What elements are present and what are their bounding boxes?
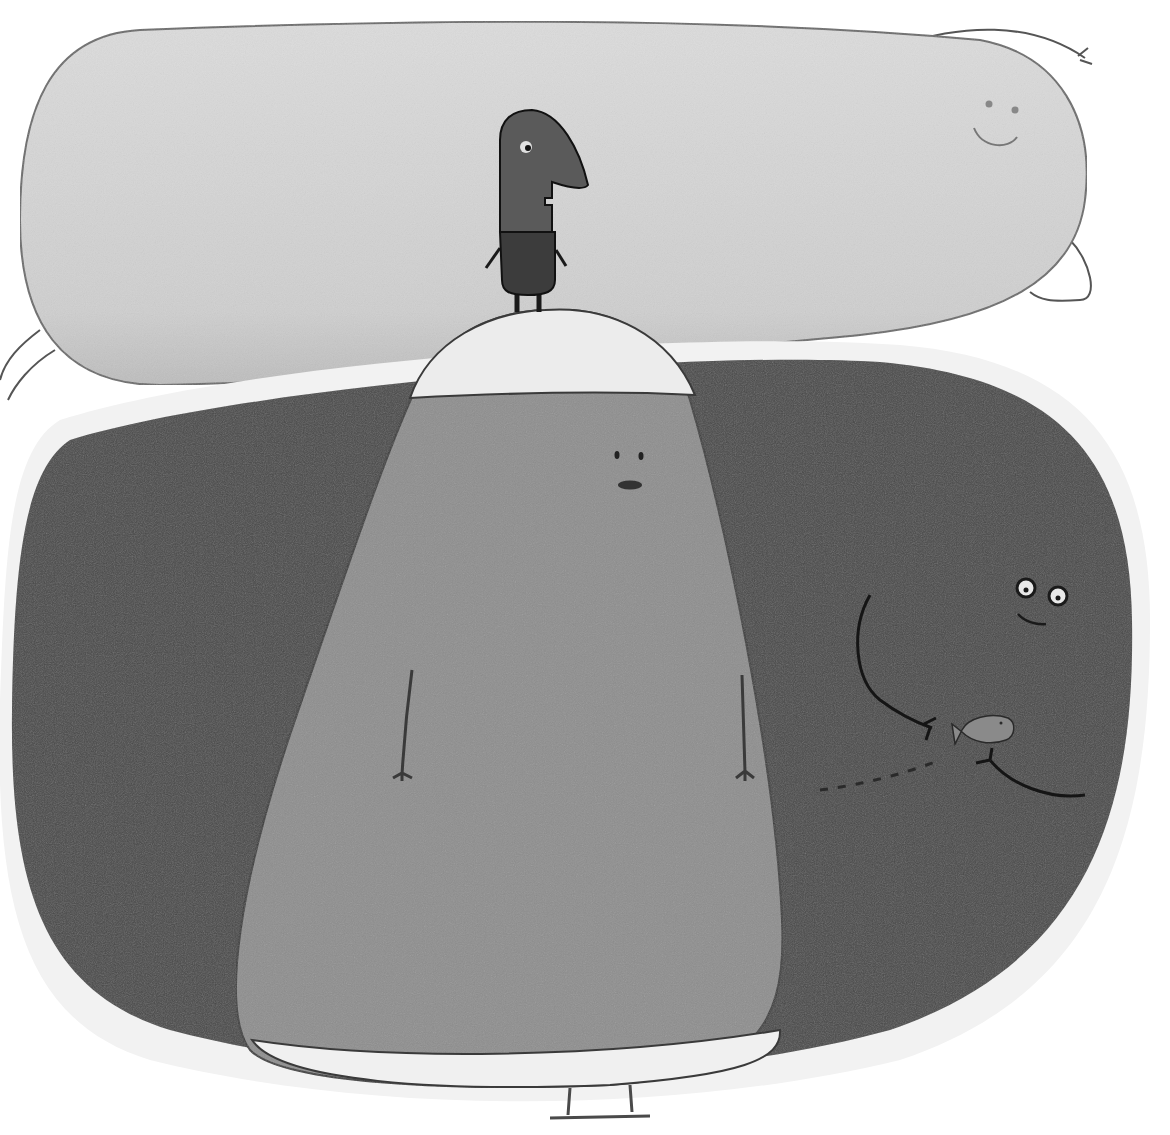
top-blob-eye-left — [986, 101, 993, 108]
top-blob-eye-right — [1012, 107, 1019, 114]
middle-blob-eye-right — [639, 452, 644, 460]
bird-pupil — [525, 145, 531, 151]
big-blob-pupil-right — [1056, 596, 1061, 601]
middle-blob-mouth — [618, 481, 642, 490]
middle-blob-eye-left — [615, 451, 620, 459]
bird-body — [500, 232, 555, 295]
illustration-canvas — [0, 0, 1170, 1135]
big-blob-pupil-left — [1024, 588, 1029, 593]
